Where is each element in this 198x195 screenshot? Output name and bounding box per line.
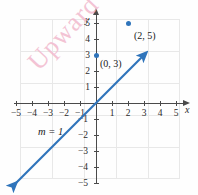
data-point-label-2-5: (2, 5) <box>134 30 156 41</box>
coordinate-plane-figure: −5 −4 −3 −2 −1 1 2 3 4 5 5 4 3 2 1 −1 −2… <box>0 0 198 195</box>
data-point-label-0-3: (0, 3) <box>100 58 122 69</box>
line-series <box>0 0 198 195</box>
slope-annotation: m = 1 <box>38 126 63 137</box>
data-point-2-5 <box>126 21 131 26</box>
line-y-equals-x-plus-3 <box>14 55 144 185</box>
data-point-0-3 <box>94 53 99 58</box>
